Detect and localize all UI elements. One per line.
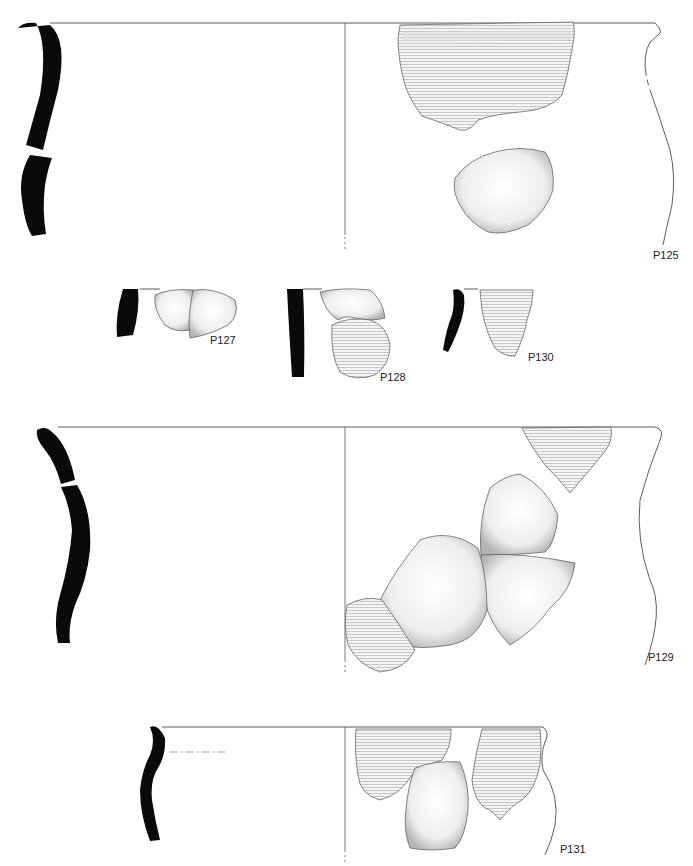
sherd-p129-mid [480,474,558,555]
sherd-p125-rim-shade [402,30,572,42]
vessel-p128 [287,289,390,378]
label-p127: P127 [210,335,236,346]
vessel-p127 [117,289,237,338]
vessel-p129 [37,427,662,672]
profile-section-p131 [140,726,165,841]
sherd-p128-top [320,289,385,320]
profile-section-p125-lower [21,155,52,236]
profile-section-p125-upper [18,23,62,150]
label-p129: P129 [648,652,674,663]
pottery-figure [0,0,693,866]
sherd-p125-body [454,149,553,234]
sherd-p128-bottom [332,319,390,378]
vessel-p131 [140,726,556,864]
sherd-p127-left [155,290,194,331]
outer-profile-p131 [542,727,556,855]
sherd-p127-right [189,289,236,338]
label-p125: P125 [653,250,679,261]
sherd-p131-centre [405,762,468,850]
outer-profile-p125 [645,23,674,245]
profile-section-p129-lower [56,485,90,643]
vessel-p125 [18,22,674,250]
profile-section-p128 [287,289,304,377]
profile-section-p130 [443,289,464,352]
profile-section-p127 [117,289,139,337]
sherd-p129-rim [522,427,611,493]
outer-profile-p129 [639,427,662,665]
sherd-p131-right [472,729,541,820]
label-p128: P128 [380,372,406,383]
sherd-p129-right [481,554,575,645]
vessel-p130 [443,289,533,356]
profile-section-p129-upper [37,428,75,484]
sherd-p130 [480,290,533,356]
label-p130: P130 [528,352,554,363]
label-p131: P131 [560,844,586,855]
